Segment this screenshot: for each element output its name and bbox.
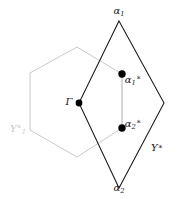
diagram-svg [0, 0, 174, 203]
gamma-point-dot [76, 100, 83, 107]
figure-canvas: α1 α2 α1∗ α2∗ Γ Y∗ Y∗1 [0, 0, 174, 203]
alpha2-star-point-dot [118, 124, 125, 131]
alpha1-star-point-dot [118, 70, 125, 77]
